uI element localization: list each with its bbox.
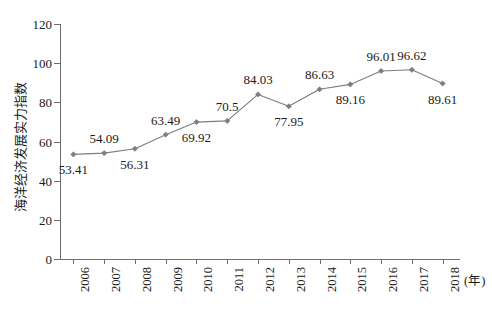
data-point-marker bbox=[409, 67, 414, 72]
data-point-marker bbox=[348, 82, 353, 87]
data-point-marker bbox=[102, 150, 107, 155]
data-point-value-label: 89.16 bbox=[336, 93, 365, 106]
data-point-value-label: 96.62 bbox=[397, 49, 426, 62]
data-point-value-label: 89.61 bbox=[428, 93, 457, 106]
data-point-marker bbox=[163, 132, 168, 137]
data-point-marker bbox=[378, 68, 383, 73]
data-point-marker bbox=[317, 87, 322, 92]
data-point-value-label: 96.01 bbox=[366, 50, 395, 63]
data-point-marker bbox=[132, 146, 137, 151]
data-point-value-label: 77.95 bbox=[274, 115, 303, 128]
data-point-value-label: 86.63 bbox=[305, 68, 334, 81]
data-point-value-label: 63.49 bbox=[151, 114, 180, 127]
data-point-marker bbox=[71, 152, 76, 157]
data-point-value-label: 84.03 bbox=[243, 73, 272, 86]
line-chart: 海洋经济发展实力指数 (年) 020406080100120 200620072… bbox=[0, 0, 492, 310]
data-point-marker bbox=[440, 81, 445, 86]
data-point-marker bbox=[194, 119, 199, 124]
data-point-value-label: 53.41 bbox=[59, 163, 88, 176]
data-point-value-label: 54.09 bbox=[90, 132, 119, 145]
data-point-value-label: 69.92 bbox=[182, 131, 211, 144]
data-point-marker bbox=[286, 104, 291, 109]
series-plot bbox=[0, 0, 492, 310]
data-point-value-label: 70.5 bbox=[216, 100, 239, 113]
data-point-value-label: 56.31 bbox=[120, 158, 149, 171]
